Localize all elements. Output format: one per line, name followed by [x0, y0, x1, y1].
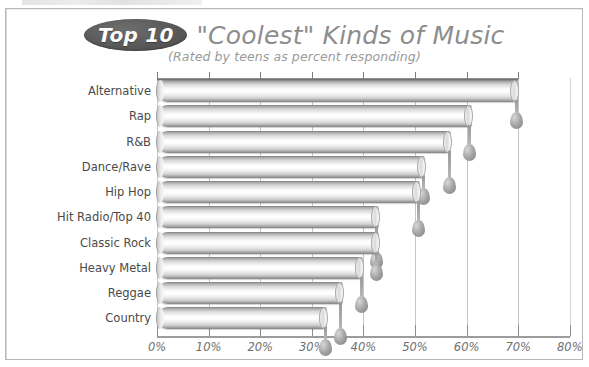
drip-bead [370, 264, 383, 281]
drip-neck [468, 125, 471, 144]
x-axis-label-50: 50% [402, 340, 428, 354]
bar-classic-rock [157, 232, 379, 254]
tick-top-40 [363, 72, 364, 79]
drip-neck [448, 151, 451, 177]
drip-bead [443, 177, 456, 194]
tick-bottom-80 [570, 325, 571, 336]
bar-left-cap [156, 282, 164, 304]
x-axis-label-70: 70% [505, 340, 531, 354]
category-label-classic-rock: Classic Rock [80, 236, 151, 250]
x-axis-label-60: 60% [454, 340, 480, 354]
bar-rap [157, 105, 472, 127]
bar-end-cap [371, 206, 380, 228]
paint-drip [463, 125, 476, 161]
paint-drip [355, 277, 368, 313]
bar-left-cap [156, 105, 164, 127]
drip-neck [339, 302, 342, 328]
category-label-reggae: Reggae [108, 286, 151, 300]
x-axis-label-30: 30% [299, 340, 325, 354]
paint-drip [443, 151, 456, 194]
category-label-heavy-metal: Heavy Metal [79, 261, 151, 275]
bar-end-cap [371, 232, 380, 254]
tick-top-50 [415, 72, 416, 79]
bar-dance-rave [157, 156, 425, 178]
tick-top-0 [157, 72, 158, 79]
tick-top-70 [518, 72, 519, 79]
paint-drip [370, 252, 383, 281]
tick-bottom-60 [467, 325, 468, 336]
tick-top-20 [260, 72, 261, 79]
bar-left-cap [156, 131, 164, 153]
axis-bottom [157, 336, 570, 338]
drip-bead [370, 252, 383, 269]
tick-top-10 [209, 72, 210, 79]
bar-end-cap [319, 307, 328, 329]
tick-top-30 [312, 72, 313, 79]
drip-bead [412, 220, 425, 237]
bar-end-cap [510, 80, 519, 102]
bar-reggae [157, 282, 343, 304]
drip-bead [510, 112, 523, 129]
category-label-dance-rave: Dance/Rave [82, 160, 151, 174]
bar-r-b [157, 131, 451, 153]
category-label-hit-radio-top-40: Hit Radio/Top 40 [57, 210, 151, 224]
x-axis-label-0: 0% [148, 340, 166, 354]
x-axis-label-10: 10% [196, 340, 222, 354]
drip-bead [463, 144, 476, 161]
paint-drip [334, 302, 347, 345]
gridline-70 [518, 78, 519, 337]
bar-end-cap [412, 181, 421, 203]
bar-left-cap [156, 156, 164, 178]
bar-heavy-metal [157, 257, 363, 279]
bar-hip-hop [157, 181, 420, 203]
bar-country [157, 307, 327, 329]
bar-left-cap [156, 80, 164, 102]
category-label-hip-hop: Hip Hop [105, 185, 151, 199]
bar-alternative [157, 80, 518, 102]
bar-end-cap [464, 105, 473, 127]
bar-end-cap [443, 131, 452, 153]
category-label-alternative: Alternative [88, 84, 151, 98]
bar-left-cap [156, 307, 164, 329]
category-label-r-b: R&B [126, 135, 151, 149]
tick-bottom-50 [415, 325, 416, 336]
chart-canvas: Top 10 "Coolest" Kinds of Music (Rated b… [0, 0, 589, 367]
tick-top-60 [467, 72, 468, 79]
drip-neck [417, 201, 420, 220]
paint-drip [412, 201, 425, 237]
category-label-country: Country [105, 311, 151, 325]
tick-bottom-70 [518, 325, 519, 336]
bar-end-cap [417, 156, 426, 178]
bar-left-cap [156, 232, 164, 254]
bar-left-cap [156, 257, 164, 279]
bar-left-cap [156, 206, 164, 228]
x-axis-label-80: 80% [557, 340, 583, 354]
paint-drip [510, 100, 523, 129]
x-axis-label-40: 40% [351, 340, 377, 354]
tick-bottom-40 [363, 325, 364, 336]
gridline-80 [570, 78, 571, 337]
bar-end-cap [335, 282, 344, 304]
x-axis-label-20: 20% [247, 340, 273, 354]
drip-bead [355, 296, 368, 313]
bar-left-cap [156, 181, 164, 203]
category-label-rap: Rap [129, 109, 151, 123]
bar-hit-radio-top-40 [157, 206, 379, 228]
plot-area: 0%10%20%30%40%50%60%70%80%AlternativeRap… [0, 0, 589, 367]
